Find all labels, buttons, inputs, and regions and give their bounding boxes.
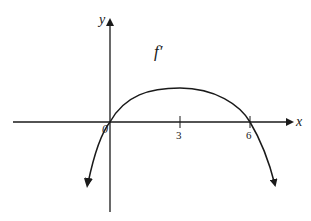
graph-canvas: y x f′ 0 3 6 bbox=[0, 0, 311, 221]
tick-label-3: 3 bbox=[176, 129, 182, 141]
x-axis-label: x bbox=[295, 114, 303, 129]
left-arrowhead-icon bbox=[84, 178, 92, 188]
tick-label-6: 6 bbox=[246, 129, 252, 141]
y-axis-label: y bbox=[97, 12, 106, 27]
function-label: f′ bbox=[154, 42, 163, 61]
origin-label: 0 bbox=[102, 122, 108, 136]
